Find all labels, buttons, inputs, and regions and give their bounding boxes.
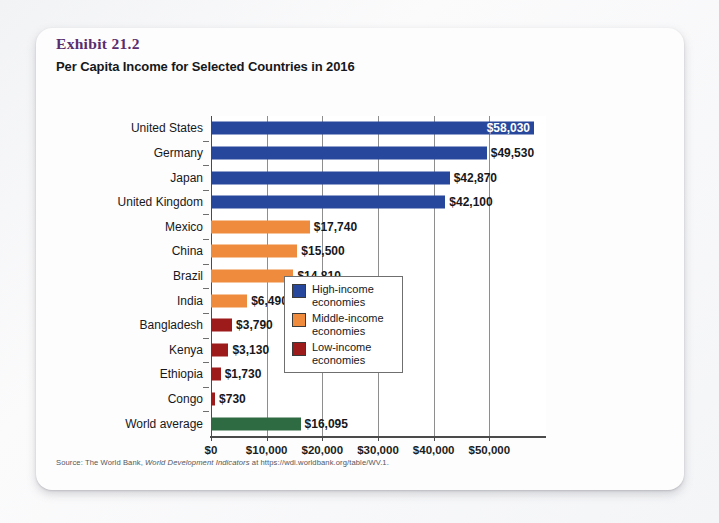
y-axis-tick	[203, 190, 209, 191]
y-axis-tick	[203, 338, 209, 339]
category-label: Germany	[36, 146, 203, 160]
y-axis-tick	[203, 214, 209, 215]
legend-label-line2: economies	[312, 325, 384, 338]
category-label: World average	[36, 417, 203, 431]
bar-value-label: $1,730	[225, 367, 262, 381]
y-axis-tick	[203, 313, 209, 314]
bar	[211, 319, 232, 332]
x-axis-tick	[378, 436, 379, 441]
gridline	[434, 116, 435, 436]
category-label: India	[36, 294, 203, 308]
x-axis-tick	[322, 436, 323, 441]
category-label: Mexico	[36, 220, 203, 234]
bar-value-label: $6,490	[251, 294, 288, 308]
bar-value-label: $16,095	[305, 417, 348, 431]
bar	[211, 146, 487, 159]
x-axis-tick	[211, 436, 212, 441]
category-label: Kenya	[36, 343, 203, 357]
bar-value-label: $730	[219, 392, 246, 406]
y-axis-tick	[203, 288, 209, 289]
legend-label-line1: Middle-income	[312, 312, 384, 325]
x-axis-tick-label: $0	[205, 444, 218, 456]
bar-value-label: $42,100	[449, 195, 492, 209]
x-axis-tick	[489, 436, 490, 441]
category-label: United Kingdom	[36, 195, 203, 209]
source-prefix: Source: The World Bank,	[56, 458, 145, 467]
bar-value-label: $15,500	[301, 244, 344, 258]
category-label: Ethiopia	[36, 367, 203, 381]
legend-swatch	[292, 284, 306, 298]
bar	[211, 171, 450, 184]
bar	[211, 417, 301, 430]
category-label: China	[36, 244, 203, 258]
x-axis-tick	[267, 436, 268, 441]
exhibit-number: Exhibit 21.2	[56, 35, 140, 53]
y-axis-tick	[203, 239, 209, 240]
source-suffix: at https://wdi.worldbank.org/table/WV.1.	[250, 458, 389, 467]
gridline	[489, 116, 490, 436]
legend-item: Low-incomeeconomies	[292, 341, 395, 366]
bar	[211, 368, 221, 381]
y-axis-tick	[203, 264, 209, 265]
legend-item: Middle-incomeeconomies	[292, 312, 395, 337]
x-axis-tick-label: $30,000	[357, 444, 399, 456]
bar	[211, 220, 310, 233]
exhibit-title: Per Capita Income for Selected Countries…	[56, 59, 355, 74]
legend-label-line2: economies	[312, 296, 374, 309]
y-axis-tick	[203, 165, 209, 166]
exhibit-card: Exhibit 21.2 Per Capita Income for Selec…	[36, 28, 684, 490]
bar	[211, 343, 228, 356]
category-label: Bangladesh	[36, 318, 203, 332]
y-axis-tick	[203, 362, 209, 363]
legend-item: High-incomeeconomies	[292, 283, 395, 308]
x-axis-tick-label: $50,000	[469, 444, 511, 456]
bar	[211, 294, 247, 307]
chart-legend: High-incomeeconomiesMiddle-incomeeconomi…	[284, 276, 403, 373]
legend-label-line1: High-income	[312, 283, 374, 296]
bar-value-label: $3,790	[236, 318, 273, 332]
x-axis-tick-label: $40,000	[413, 444, 455, 456]
bar	[211, 196, 445, 209]
legend-label-line1: Low-income	[312, 341, 371, 354]
category-label: Japan	[36, 171, 203, 185]
y-axis-tick	[203, 387, 209, 388]
legend-label: High-incomeeconomies	[312, 283, 374, 308]
bar	[211, 122, 534, 135]
x-axis-tick	[434, 436, 435, 441]
x-axis-tick-label: $10,000	[246, 444, 288, 456]
bar-chart: $0$10,000$20,000$30,000$40,000$50,000 Un…	[36, 90, 684, 490]
bar-value-label: $3,130	[232, 343, 269, 357]
bar-value-label: $42,870	[454, 171, 497, 185]
legend-swatch	[292, 313, 306, 327]
bar	[211, 245, 297, 258]
bar	[211, 393, 215, 406]
legend-label-line2: economies	[312, 354, 371, 367]
source-publication: World Development Indicators	[145, 458, 250, 467]
bar-value-label: $49,530	[491, 146, 534, 160]
legend-swatch	[292, 342, 306, 356]
x-axis-tick-label: $20,000	[302, 444, 344, 456]
bar-value-label: $58,030	[487, 121, 530, 135]
bar	[211, 270, 293, 283]
category-label: Congo	[36, 392, 203, 406]
bar-value-label: $17,740	[314, 220, 357, 234]
legend-label: Middle-incomeeconomies	[312, 312, 384, 337]
category-label: United States	[36, 121, 203, 135]
y-axis-tick	[203, 141, 209, 142]
source-note: Source: The World Bank, World Developmen…	[56, 458, 389, 467]
y-axis-tick	[203, 411, 209, 412]
category-label: Brazil	[36, 269, 203, 283]
legend-label: Low-incomeeconomies	[312, 341, 371, 366]
